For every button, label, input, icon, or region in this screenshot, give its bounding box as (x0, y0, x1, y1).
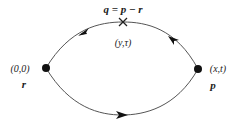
right-vertex-dot (194, 65, 202, 73)
top-momentum-label: q = p − r (103, 3, 143, 15)
arrow-upper-left-icon (78, 28, 89, 36)
loop-diagram: q = p − r (y,τ) (0,0) r (x,t) p (0, 0, 236, 121)
arrow-upper-right-icon (168, 36, 179, 45)
left-vertex-dot (42, 64, 50, 72)
left-momentum-label: r (22, 78, 27, 90)
lower-propagator (46, 68, 198, 115)
right-momentum-label: p (209, 79, 216, 91)
top-vertex-coords-label: (y,τ) (115, 37, 132, 49)
left-vertex-coords-label: (0,0) (10, 63, 30, 75)
right-vertex-coords-label: (x,t) (210, 63, 227, 75)
